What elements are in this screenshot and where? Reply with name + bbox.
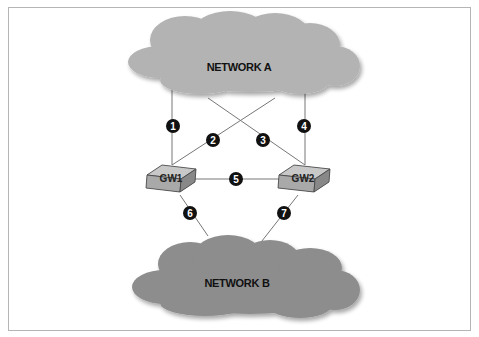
link-7 — [258, 195, 298, 246]
link-2 — [172, 98, 275, 165]
links — [172, 90, 305, 246]
network-a-label: NETWORK A — [207, 61, 272, 73]
link-marker-7: 7 — [277, 206, 291, 220]
link-marker-5: 5 — [229, 172, 243, 186]
svg-text:1: 1 — [170, 121, 176, 132]
network-diagram: NETWORK A NETWORK B GW1 GW2 1 — [0, 0, 479, 337]
svg-text:5: 5 — [233, 174, 239, 185]
svg-text:7: 7 — [281, 208, 287, 219]
link-marker-3: 3 — [256, 133, 270, 147]
link-marker-1: 1 — [166, 119, 180, 133]
svg-text:6: 6 — [187, 208, 193, 219]
svg-text:4: 4 — [301, 121, 307, 132]
link-marker-4: 4 — [297, 119, 311, 133]
gateway-gw2-label: GW2 — [292, 173, 315, 184]
link-marker-6: 6 — [183, 206, 197, 220]
svg-text:2: 2 — [210, 135, 216, 146]
gateway-gw1-label: GW1 — [160, 173, 183, 184]
link-marker-2: 2 — [206, 133, 220, 147]
network-b-label: NETWORK B — [204, 277, 269, 289]
link-3 — [208, 98, 305, 165]
svg-text:3: 3 — [260, 135, 266, 146]
network-a-cloud — [128, 11, 360, 94]
